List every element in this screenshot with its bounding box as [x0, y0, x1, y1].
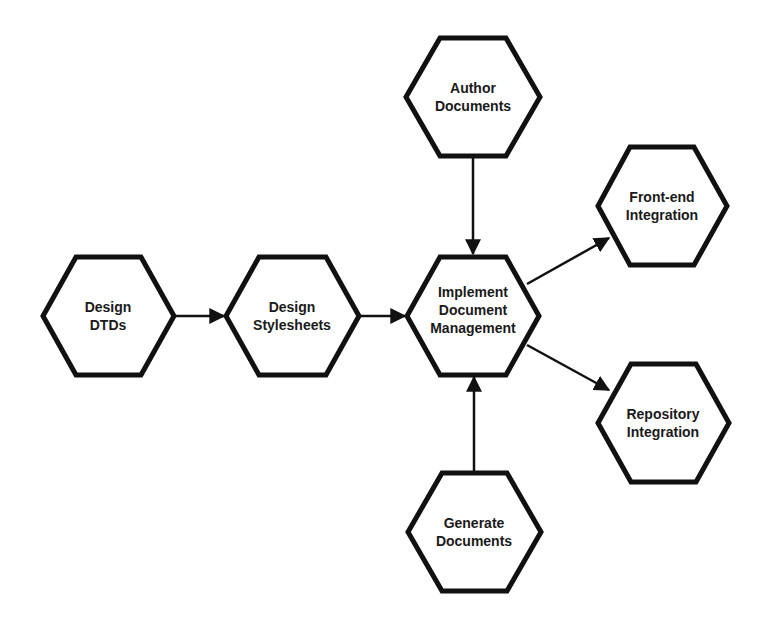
node-label: Repository Integration: [626, 405, 699, 441]
node-label: Implement Document Management: [430, 283, 516, 337]
node-generate-documents: Generate Documents: [419, 492, 529, 572]
edge-implement-to-frontend: [527, 238, 609, 284]
node-implement-document-management: Implement Document Management: [413, 270, 533, 350]
diagram-canvas: Design DTDs Design Stylesheets Implement…: [0, 0, 774, 633]
edge-implement-to-repository: [527, 345, 609, 390]
node-label: Design DTDs: [85, 298, 132, 334]
node-design-stylesheets: Design Stylesheets: [237, 276, 347, 356]
node-label: Front-end Integration: [626, 188, 698, 224]
node-design-dtds: Design DTDs: [58, 276, 158, 356]
node-front-end-integration: Front-end Integration: [607, 166, 717, 246]
node-repository-integration: Repository Integration: [608, 383, 718, 463]
node-author-documents: Author Documents: [418, 57, 528, 137]
node-label: Design Stylesheets: [253, 298, 331, 334]
node-label: Author Documents: [435, 79, 511, 115]
node-label: Generate Documents: [436, 514, 512, 550]
